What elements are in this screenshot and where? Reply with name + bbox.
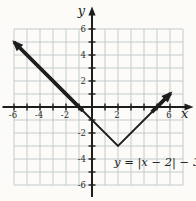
y-tick-label--6: -6: [78, 180, 86, 190]
plot-canvas: -6-4-226642-2-4-6 y x y = |x − 2| − 3: [0, 0, 196, 201]
x-tick-label-2: 2: [114, 110, 119, 120]
y-tick-label-2: 2: [81, 76, 86, 86]
x-tick-label--4: -4: [35, 110, 43, 120]
y-tick-label-4: 4: [81, 50, 86, 60]
y-tick-label--4: -4: [78, 154, 86, 164]
x-tick-label--6: -6: [9, 110, 17, 120]
x-tick-label-6: 6: [166, 110, 171, 120]
y-axis-label: y: [77, 3, 86, 18]
x-tick-label--2: -2: [61, 110, 69, 120]
absolute-value-graph-figure: -6-4-226642-2-4-6 y x y = |x − 2| − 3: [0, 0, 196, 201]
y-tick-label-6: 6: [81, 24, 86, 34]
x-axis-label: x: [181, 106, 189, 121]
equation-label: y = |x − 2| − 3: [113, 155, 196, 170]
y-tick-label--2: -2: [78, 128, 86, 138]
